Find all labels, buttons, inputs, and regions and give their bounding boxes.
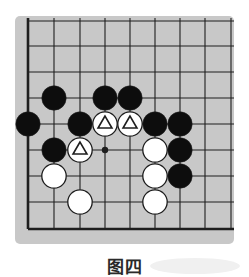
black-stone: [168, 138, 192, 162]
white-stone: [143, 138, 167, 162]
white-stone: [93, 112, 117, 136]
black-stone: [118, 86, 142, 110]
black-stone: [168, 164, 192, 188]
star-point: [102, 147, 108, 153]
go-board-diagram: 图四: [0, 0, 249, 277]
black-stone: [93, 86, 117, 110]
black-stone: [42, 86, 66, 110]
black-stone: [42, 138, 66, 162]
black-stone: [68, 112, 92, 136]
figure-caption: 图四: [0, 253, 249, 277]
white-stone: [68, 190, 92, 214]
go-board: [0, 0, 249, 277]
white-stone: [143, 190, 167, 214]
white-stone: [68, 138, 92, 162]
star-points: [102, 147, 108, 153]
white-stone: [118, 112, 142, 136]
black-stone: [143, 112, 167, 136]
white-stone: [42, 164, 66, 188]
black-stone: [168, 112, 192, 136]
black-stone: [16, 112, 40, 136]
white-stone: [143, 164, 167, 188]
